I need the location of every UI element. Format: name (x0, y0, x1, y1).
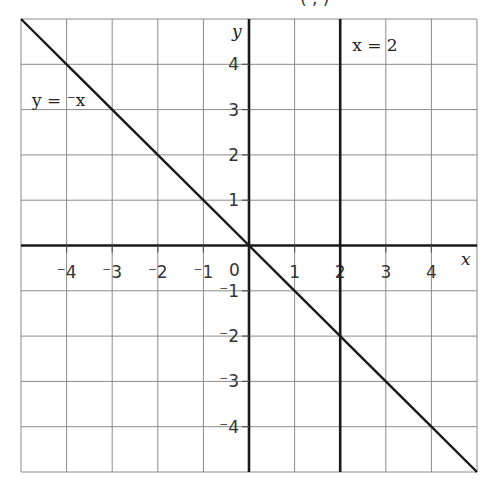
y-tick-label: ⁻2 (219, 326, 239, 346)
coordinate-graph: ( , ) ⁻4⁻3⁻2⁻101234⁻4⁻3⁻2⁻11234 x y y = … (0, 0, 494, 485)
line-label-y-equals-negative-x: y = ⁻x (31, 90, 86, 110)
y-tick-label: ⁻4 (219, 417, 239, 437)
y-tick-label: 2 (228, 145, 239, 165)
x-tick-label: 4 (426, 262, 437, 282)
x-tick-label: ⁻3 (102, 262, 122, 282)
x-tick-label: ⁻1 (194, 262, 214, 282)
x-tick-label: ⁻2 (148, 262, 168, 282)
y-tick-label: 3 (228, 100, 239, 120)
y-tick-label: 4 (228, 54, 239, 74)
y-tick-label: 1 (228, 190, 239, 210)
y-axis-label: y (231, 21, 242, 41)
line-label-x-equals-2: x = 2 (352, 35, 397, 55)
origin-label: 0 (229, 260, 240, 280)
x-tick-label: ⁻4 (57, 262, 77, 282)
cut-off-title-fragment: ( , ) (300, 0, 329, 8)
x-axis-label: x (461, 249, 471, 269)
x-tick-label: 1 (289, 262, 300, 282)
y-tick-label: ⁻3 (219, 371, 239, 391)
x-tick-label: 3 (380, 262, 391, 282)
y-tick-label: ⁻1 (219, 281, 239, 301)
